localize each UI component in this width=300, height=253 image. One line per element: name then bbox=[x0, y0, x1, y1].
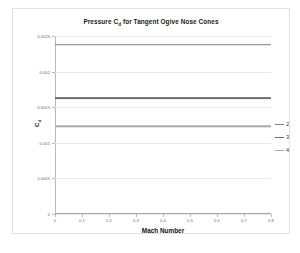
legend-label: 3 bbox=[286, 135, 289, 141]
y-axis-title: Cd bbox=[33, 120, 42, 127]
x-tick-label: 0.1 bbox=[79, 218, 85, 223]
series-line-3 bbox=[55, 97, 271, 99]
y-tick-label: 0 bbox=[48, 212, 50, 217]
legend-swatch-icon bbox=[275, 150, 284, 152]
legend-item-2[interactable]: 2 bbox=[275, 118, 300, 131]
legend-swatch-icon bbox=[275, 124, 284, 126]
x-tick-label: 0.4 bbox=[160, 218, 166, 223]
x-tick-label: 0.7 bbox=[241, 218, 247, 223]
y-axis-title-subscript: d bbox=[37, 120, 42, 123]
y-tick-mark bbox=[52, 36, 55, 37]
x-tick-label: 0 bbox=[54, 218, 56, 223]
y-tick-mark bbox=[52, 143, 55, 144]
y-tick-mark bbox=[52, 72, 55, 73]
gridline-y bbox=[55, 178, 271, 179]
chart-title-main: Pressure C bbox=[83, 18, 118, 25]
y-tick-label: 0.0025 bbox=[37, 34, 50, 39]
legend-item-3[interactable]: 3 bbox=[275, 131, 300, 144]
x-tick-mark bbox=[244, 214, 245, 217]
chart-title: Pressure Cd for Tangent Ogive Nose Cones bbox=[13, 18, 289, 27]
x-tick-mark bbox=[55, 214, 56, 217]
legend-item-4[interactable]: 4 bbox=[275, 144, 300, 157]
y-tick-mark bbox=[52, 107, 55, 108]
chart-legend: 234 bbox=[275, 118, 300, 157]
gridline-y bbox=[55, 143, 271, 144]
y-tick-mark bbox=[52, 178, 55, 179]
series-line-2 bbox=[55, 44, 271, 46]
y-axis-title-main: C bbox=[33, 123, 40, 127]
chart-figure: Pressure Cd for Tangent Ogive Nose Cones… bbox=[12, 8, 290, 234]
series-line-4 bbox=[55, 126, 271, 127]
y-tick-label: 0.001 bbox=[40, 140, 50, 145]
x-tick-mark bbox=[136, 214, 137, 217]
gridline-y bbox=[55, 36, 271, 37]
x-tick-label: 0.5 bbox=[187, 218, 193, 223]
legend-swatch-icon bbox=[275, 137, 284, 139]
legend-label: 2 bbox=[286, 122, 289, 128]
x-tick-mark bbox=[163, 214, 164, 217]
x-tick-label: 0.8 bbox=[268, 218, 274, 223]
gridline-y bbox=[55, 107, 271, 108]
legend-label: 4 bbox=[286, 148, 289, 154]
x-tick-label: 0.6 bbox=[214, 218, 220, 223]
y-tick-label: 0.0005 bbox=[37, 176, 50, 181]
x-tick-mark bbox=[109, 214, 110, 217]
x-axis-title: Mach Number bbox=[55, 227, 271, 234]
y-tick-label: 0.002 bbox=[40, 69, 50, 74]
x-tick-label: 0.3 bbox=[133, 218, 139, 223]
x-tick-mark bbox=[190, 214, 191, 217]
chart-title-rest: for Tangent Ogive Nose Cones bbox=[121, 18, 219, 25]
y-tick-label: 0.0015 bbox=[37, 105, 50, 110]
x-tick-mark bbox=[217, 214, 218, 217]
gridline-y bbox=[55, 72, 271, 73]
x-tick-label: 0.2 bbox=[106, 218, 112, 223]
x-tick-mark bbox=[271, 214, 272, 217]
plot-area: 00.00050.0010.00150.0020.0025 00.10.20.3… bbox=[55, 36, 271, 214]
x-tick-mark bbox=[82, 214, 83, 217]
